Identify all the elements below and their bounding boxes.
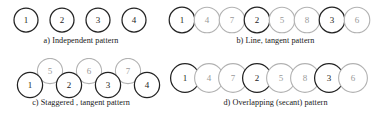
circle-label: 5 [48,66,53,76]
panel-c-staggered-tangent: 5671234 c) Staggered , tangent pattern [0,58,162,118]
circle-label: 7 [230,15,235,25]
circle-node-1: 1 [169,7,195,33]
circle-label: 7 [126,66,131,76]
circle-label: 6 [87,66,92,76]
circle-label: 1 [24,15,29,25]
circle-label: 2 [255,73,260,83]
circle-label: 4 [207,73,212,83]
circle-node-5: 5 [269,7,295,33]
circle-label: 1 [183,73,188,83]
circle-label: 3 [327,73,332,83]
panel-a-independent: 1234 a) Independent pattern [0,2,162,58]
panel-b-caption: b) Line, tangent pattern [165,36,386,46]
circle-node-1: 1 [17,72,42,97]
circle-label: 1 [180,15,185,25]
circle-node-4: 4 [194,7,220,33]
circle-node-2: 2 [50,8,74,32]
circle-node-8: 8 [294,7,320,33]
circle-label: 6 [355,15,360,25]
panel-b-line-tangent: 14725836 b) Line, tangent pattern [165,2,386,58]
circle-label: 7 [231,73,236,83]
panel-d-caption: d) Overlapping (secant) pattern [165,98,386,108]
circle-label: 2 [255,15,260,25]
circle-node-3: 3 [95,72,120,97]
circle-label: 8 [303,73,308,83]
circle-node-6: 6 [339,64,368,93]
panel-a-caption: a) Independent pattern [0,36,162,46]
circle-node-3: 3 [86,8,110,32]
circle-label: 4 [132,15,137,25]
circle-node-1: 1 [14,8,38,32]
circle-label: 5 [279,73,284,83]
circle-label: 6 [351,73,356,83]
circle-label: 2 [60,15,65,25]
circle-node-6: 6 [344,7,370,33]
circle-label: 8 [305,15,310,25]
circle-label: 2 [67,80,72,90]
circle-label: 4 [145,80,150,90]
panel-a-diagram: 1234 [0,2,162,38]
panel-c-caption: c) Staggered , tangent pattern [0,98,162,108]
panel-d-diagram: 14725836 [165,58,386,100]
circle-label: 3 [330,15,335,25]
circle-node-4: 4 [122,8,146,32]
panel-c-diagram: 5671234 [0,58,162,100]
circle-node-7: 7 [219,7,245,33]
pattern-figure: 1234 a) Independent pattern 14725836 b) … [0,0,386,120]
circle-label: 4 [205,15,210,25]
circle-label: 3 [106,80,111,90]
circle-label: 3 [96,15,101,25]
circle-node-2: 2 [244,7,270,33]
circle-node-3: 3 [319,7,345,33]
panel-d-overlapping-secant: 14725836 d) Overlapping (secant) pattern [165,58,386,118]
panel-b-diagram: 14725836 [165,2,386,38]
circle-label: 1 [28,80,33,90]
circle-node-4: 4 [134,72,159,97]
circle-label: 5 [280,15,285,25]
circle-node-2: 2 [56,72,81,97]
